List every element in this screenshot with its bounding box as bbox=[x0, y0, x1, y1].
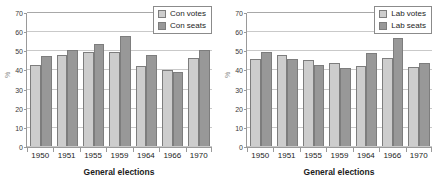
bar bbox=[94, 44, 105, 146]
bar bbox=[146, 55, 157, 146]
x-tick-label: 1950 bbox=[27, 152, 53, 161]
bar-group bbox=[301, 13, 327, 146]
y-tick-label: 50 bbox=[235, 48, 243, 55]
y-tick-mark bbox=[24, 51, 27, 52]
y-tick-label: 50 bbox=[15, 48, 23, 55]
bar bbox=[340, 68, 351, 146]
y-tick-mark bbox=[244, 109, 247, 110]
legend-swatch-icon bbox=[158, 10, 166, 18]
legend-right: Lab votes Lab seats bbox=[374, 6, 432, 34]
bar bbox=[109, 52, 120, 146]
y-tick-label: 30 bbox=[235, 86, 243, 93]
x-tick-label: 1964 bbox=[133, 152, 159, 161]
x-axis-title-left: General elections bbox=[26, 167, 212, 177]
y-tick-label: 20 bbox=[15, 105, 23, 112]
legend-item-label: Con seats bbox=[170, 22, 206, 30]
chart-panel-conservative: % 010203040506070 1950195119551959196419… bbox=[0, 0, 220, 193]
x-tick-label: 1970 bbox=[406, 152, 432, 161]
x-tick-label: 1966 bbox=[159, 152, 185, 161]
gridline: 0 bbox=[27, 146, 212, 147]
y-tick-label: 70 bbox=[15, 10, 23, 17]
bar bbox=[303, 60, 314, 146]
y-tick-mark bbox=[24, 32, 27, 33]
legend-item-con-votes: Con votes bbox=[158, 10, 206, 18]
y-axis-title-left: % bbox=[4, 72, 11, 78]
bar bbox=[67, 50, 78, 146]
y-tick-label: 30 bbox=[15, 86, 23, 93]
y-tick-mark bbox=[244, 51, 247, 52]
y-tick-mark bbox=[24, 109, 27, 110]
bar-group bbox=[107, 13, 133, 146]
bar bbox=[408, 67, 419, 146]
x-tick-label: 1955 bbox=[300, 152, 326, 161]
bar bbox=[261, 52, 272, 146]
y-tick-label: 20 bbox=[235, 105, 243, 112]
bar bbox=[30, 65, 41, 146]
bar bbox=[366, 53, 377, 146]
bar bbox=[136, 66, 147, 146]
y-tick-label: 10 bbox=[15, 124, 23, 131]
y-tick-mark bbox=[24, 70, 27, 71]
x-tick-label: 1955 bbox=[80, 152, 106, 161]
legend-swatch-icon bbox=[158, 22, 166, 30]
bar bbox=[287, 59, 298, 146]
bar-group bbox=[81, 13, 107, 146]
bar bbox=[199, 50, 210, 146]
y-tick-mark bbox=[244, 70, 247, 71]
bar bbox=[277, 55, 288, 146]
bar bbox=[41, 56, 52, 146]
bar-group bbox=[28, 13, 54, 146]
y-tick-label: 0 bbox=[19, 144, 23, 151]
y-tick-label: 60 bbox=[15, 29, 23, 36]
legend-swatch-icon bbox=[379, 10, 387, 18]
x-tick-label: 1966 bbox=[379, 152, 405, 161]
y-tick-mark bbox=[244, 13, 247, 14]
legend-left: Con votes Con seats bbox=[153, 6, 212, 34]
y-axis-title-right: % bbox=[224, 72, 231, 78]
legend-item-label: Con votes bbox=[170, 10, 206, 18]
y-tick-label: 10 bbox=[235, 124, 243, 131]
bar bbox=[419, 63, 430, 146]
legend-swatch-icon bbox=[379, 22, 387, 30]
bar bbox=[314, 65, 325, 146]
x-tick-label: 1970 bbox=[186, 152, 212, 161]
bar bbox=[393, 38, 404, 146]
y-tick-mark bbox=[24, 13, 27, 14]
bar bbox=[173, 72, 184, 146]
x-axis-title-right: General elections bbox=[246, 167, 432, 177]
bar bbox=[356, 66, 367, 146]
x-tick-labels-right: 1950195119551959196419661970 bbox=[247, 152, 432, 161]
gridline: 0 bbox=[247, 146, 432, 147]
bar bbox=[162, 70, 173, 146]
chart-panel-labour: % 010203040506070 1950195119551959196419… bbox=[220, 0, 440, 193]
bar bbox=[250, 59, 261, 146]
bar bbox=[120, 36, 131, 146]
bar bbox=[83, 52, 94, 146]
y-tick-label: 70 bbox=[235, 10, 243, 17]
bar-group bbox=[274, 13, 300, 146]
y-tick-mark bbox=[244, 90, 247, 91]
y-tick-label: 40 bbox=[15, 67, 23, 74]
legend-item-lab-seats: Lab seats bbox=[379, 22, 426, 30]
x-tick-label: 1951 bbox=[53, 152, 79, 161]
bar-group bbox=[248, 13, 274, 146]
y-tick-mark bbox=[24, 90, 27, 91]
charts-row: % 010203040506070 1950195119551959196419… bbox=[0, 0, 440, 193]
x-tick-label: 1959 bbox=[326, 152, 352, 161]
legend-item-label: Lab seats bbox=[391, 22, 426, 30]
x-tick-label: 1951 bbox=[273, 152, 299, 161]
bar bbox=[188, 58, 199, 146]
bar bbox=[329, 63, 340, 146]
bar-group bbox=[327, 13, 353, 146]
bar bbox=[382, 58, 393, 146]
y-tick-label: 40 bbox=[235, 67, 243, 74]
legend-item-lab-votes: Lab votes bbox=[379, 10, 426, 18]
bar bbox=[57, 55, 68, 146]
legend-item-label: Lab votes bbox=[391, 10, 426, 18]
x-tick-labels-left: 1950195119551959196419661970 bbox=[27, 152, 212, 161]
y-tick-mark bbox=[244, 32, 247, 33]
x-tick-label: 1959 bbox=[106, 152, 132, 161]
x-tick-label: 1964 bbox=[353, 152, 379, 161]
bar-group bbox=[54, 13, 80, 146]
y-tick-mark bbox=[24, 128, 27, 129]
